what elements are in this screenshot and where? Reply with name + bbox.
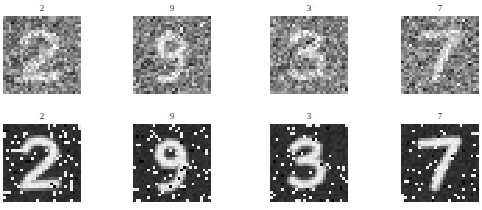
sample-cell-bottom-4: 7 bbox=[401, 110, 479, 202]
digit-tile-bottom-1 bbox=[3, 124, 81, 202]
digit-image-top-3 bbox=[270, 16, 348, 94]
sample-label-bottom-3: 3 bbox=[270, 110, 348, 122]
digit-image-bottom-4 bbox=[401, 124, 479, 202]
digit-tile-top-2 bbox=[133, 16, 211, 94]
digit-image-bottom-1 bbox=[3, 124, 81, 202]
sample-cell-top-3: 3 bbox=[270, 2, 348, 94]
digit-image-bottom-3 bbox=[270, 124, 348, 202]
digit-tile-bottom-2 bbox=[133, 124, 211, 202]
digit-tile-bottom-3 bbox=[270, 124, 348, 202]
sample-label-top-4: 7 bbox=[401, 2, 479, 14]
digit-tile-bottom-4 bbox=[401, 124, 479, 202]
sample-label-bottom-1: 2 bbox=[3, 110, 81, 122]
digit-tile-top-1 bbox=[3, 16, 81, 94]
sample-cell-bottom-2: 9 bbox=[133, 110, 211, 202]
sample-label-bottom-2: 9 bbox=[133, 110, 211, 122]
digit-image-top-4 bbox=[401, 16, 479, 94]
digit-samples-figure: 2 9 3 7 2 9 3 bbox=[0, 0, 482, 210]
sample-label-bottom-4: 7 bbox=[401, 110, 479, 122]
digit-tile-top-4 bbox=[401, 16, 479, 94]
sample-cell-bottom-1: 2 bbox=[3, 110, 81, 202]
sample-cell-bottom-3: 3 bbox=[270, 110, 348, 202]
digit-image-bottom-2 bbox=[133, 124, 211, 202]
sample-label-top-1: 2 bbox=[3, 2, 81, 14]
sample-cell-top-1: 2 bbox=[3, 2, 81, 94]
digit-tile-top-3 bbox=[270, 16, 348, 94]
sample-cell-top-2: 9 bbox=[133, 2, 211, 94]
sample-label-top-3: 3 bbox=[270, 2, 348, 14]
digit-image-top-1 bbox=[3, 16, 81, 94]
sample-cell-top-4: 7 bbox=[401, 2, 479, 94]
digit-image-top-2 bbox=[133, 16, 211, 94]
sample-label-top-2: 9 bbox=[133, 2, 211, 14]
